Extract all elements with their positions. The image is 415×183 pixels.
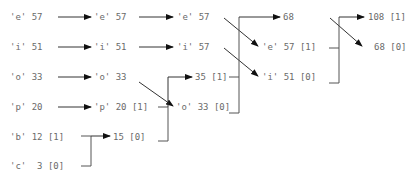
node-35: 35 [1] [195, 72, 228, 82]
node-i-51: 'i' 51 [0] [262, 72, 316, 82]
node-b-12: 'b' 12 [1] [10, 132, 64, 142]
node-68: 68 [283, 12, 294, 22]
node-i-51: 'i' 51 [10, 42, 43, 52]
huffman-diagram: 'e' 57 'i' 51 'o' 33 'p' 20 'b' 12 [1] '… [0, 0, 415, 183]
node-e-57: 'e' 57 [177, 12, 210, 22]
connector-lines [0, 0, 415, 183]
node-o-33: 'o' 33 [0] [176, 102, 230, 112]
node-e-57: 'e' 57 [94, 12, 127, 22]
node-15: 15 [0] [113, 132, 146, 142]
node-e-57: 'e' 57 [1] [262, 42, 316, 52]
node-o-33: 'o' 33 [10, 72, 43, 82]
node-p-20: 'p' 20 [10, 102, 43, 112]
node-c-3: 'c' 3 [0] [10, 161, 64, 171]
node-o-33: 'o' 33 [94, 72, 127, 82]
node-i-57: 'i' 57 [177, 42, 210, 52]
node-68: 68 [0] [374, 42, 407, 52]
node-p-20: 'p' 20 [1] [94, 102, 148, 112]
node-e-57: 'e' 57 [10, 12, 43, 22]
node-108: 108 [1] [368, 12, 406, 22]
node-i-51: 'i' 51 [94, 42, 127, 52]
